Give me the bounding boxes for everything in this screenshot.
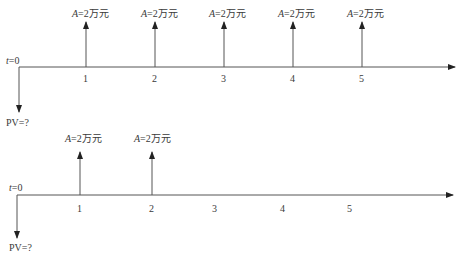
start-time-label: t=0 [6,55,19,66]
period-label: 5 [359,73,364,84]
period-label: 4 [290,73,295,84]
payment-label: A=2万元 [133,133,171,144]
cash-flow-diagrams: t=0 PV=? A=2万元 1 A=2万元 2 A=2万元 3 A=2万元 4… [0,0,463,270]
payment-label: A=2万元 [208,8,246,19]
payment-label: A=2万元 [346,8,384,19]
period-label: 2 [149,203,154,214]
period-label: 2 [152,73,157,84]
period-label: 4 [280,203,285,214]
timeline-top: t=0 PV=? A=2万元 1 A=2万元 2 A=2万元 3 A=2万元 4… [6,8,455,128]
period-label: 5 [347,203,352,214]
pv-label: PV=? [6,117,29,128]
period-label: 3 [212,203,217,214]
period-label: 1 [77,203,82,214]
timeline-bottom: t=0 PV=? A=2万元 1 A=2万元 2 3 4 5 [9,133,453,253]
period-label: 3 [221,73,226,84]
payment-label: A=2万元 [71,8,109,19]
payment-label: A=2万元 [277,8,315,19]
payment-label: A=2万元 [140,8,178,19]
payment-label: A=2万元 [64,133,102,144]
period-label: 1 [83,73,88,84]
pv-label: PV=? [9,242,32,253]
start-time-label: t=0 [9,182,22,193]
